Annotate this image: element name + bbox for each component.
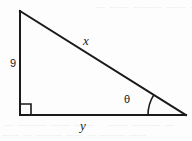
triangle-hypotenuse	[20, 11, 186, 115]
label-vertical-leg: 9	[10, 58, 16, 69]
label-hypotenuse: x	[83, 34, 89, 47]
angle-arc-icon	[148, 95, 154, 115]
triangle-drawing	[0, 0, 192, 141]
label-base: y	[80, 119, 86, 132]
right-angle-marker-icon	[20, 104, 31, 114]
label-angle-theta: θ	[124, 94, 130, 105]
right-triangle-figure: — —— ——— —— — — ——— —— —— —— ——— — —— — …	[0, 0, 192, 141]
